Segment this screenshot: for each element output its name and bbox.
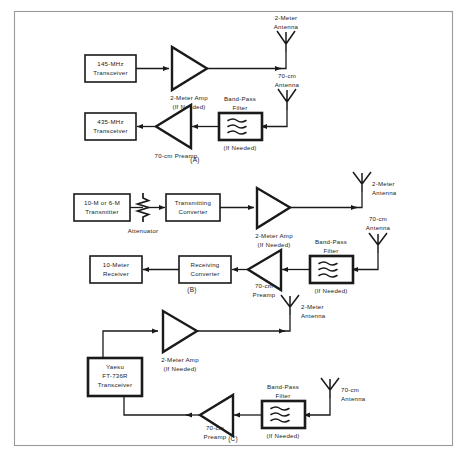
block-10meter-receiver: 10-Meter Receiver <box>90 256 142 283</box>
block-label-line2: Transceiver <box>93 69 127 76</box>
filter-label-line3: (If Needed) <box>223 144 256 151</box>
amp-label-line1: 2-Meter Amp <box>170 94 208 101</box>
wire-a-tx-3 <box>277 52 286 69</box>
antenna-label-line2: Antenna <box>275 81 300 88</box>
preamp-70cm-b: 70-cm Preamp <box>248 250 281 298</box>
antenna-label-line2: Antenna <box>274 23 299 30</box>
antenna-label-line1: 2-Meter <box>275 14 298 21</box>
amp-label-line2: (If Needed) <box>257 241 290 248</box>
section-label-a: (A) <box>190 156 199 164</box>
block-label-line3: Transceiver <box>98 381 132 388</box>
preamp-label-line1: 70-cm <box>206 424 224 431</box>
bandpass-filter-c: Band-Pass Filter (If Needed) <box>262 383 305 439</box>
antenna-label-line1: 70-cm <box>369 215 387 222</box>
bandpass-filter-a: Band-Pass Filter (If Needed) <box>219 95 262 151</box>
antenna-label-line1: 70-cm <box>341 386 359 393</box>
block-label-line1: Receiving <box>190 261 219 268</box>
block-label-line1: 435-MHz <box>97 118 123 125</box>
block-label-line1: 10-M or 6-M <box>84 199 120 206</box>
diagram-section-b: 10-M or 6-M Transmitter Attenuator Trans… <box>74 172 397 298</box>
antenna-label-line1: 2-Meter <box>301 303 324 310</box>
diagram-section-c: Yaesu FT-736R Transceiver 2-Meter Amp (I… <box>88 295 366 443</box>
amp-2meter-a: 2-Meter Amp (If Needed) <box>170 47 208 110</box>
antenna-70cm-a: 70-cm Antenna <box>275 72 300 110</box>
block-receiving-converter: Receiving Converter <box>179 256 231 283</box>
antenna-label-line1: 2-Meter <box>372 180 395 187</box>
diagram-section-a: 145-MHz Transceiver 2-Meter Amp (If Need… <box>85 14 300 164</box>
antenna-2meter-b: 2-Meter Antenna <box>353 172 397 196</box>
antenna-70cm-c: 70-cm Antenna <box>321 378 366 402</box>
wire-b-tx-4 <box>353 192 362 208</box>
filter-label-line2: Filter <box>275 392 290 399</box>
wire-c-tx-3 <box>281 315 290 331</box>
antenna-2meter-a: 2-Meter Antenna <box>274 14 299 52</box>
block-label-line1: 145-MHz <box>97 60 123 67</box>
block-label-line1: 10-Meter <box>103 261 129 268</box>
block-yaesu-ft736r-transceiver: Yaesu FT-736R Transceiver <box>88 358 142 396</box>
block-transmitting-converter: Transmitting Converter <box>166 194 220 221</box>
amp-2meter-b: 2-Meter Amp (If Needed) <box>255 188 293 248</box>
block-label-line2: Transceiver <box>93 127 127 134</box>
antenna-label-line2: Antenna <box>366 224 391 231</box>
antenna-label-line2: Antenna <box>341 395 366 402</box>
block-label-line2: Receiver <box>103 270 129 277</box>
section-label-b: (B) <box>187 286 196 294</box>
filter-label-line3: (If Needed) <box>314 287 347 294</box>
filter-label-line1: Band-Pass <box>224 95 256 102</box>
filter-label-line1: Band-Pass <box>315 238 347 245</box>
block-label-line2: Transmitter <box>85 208 118 215</box>
attenuator-b: Attenuator <box>128 193 159 234</box>
block-label-line1: Transmitting <box>175 199 211 206</box>
section-label-c: (C) <box>228 435 238 443</box>
wire-b-rx-4 <box>352 253 378 270</box>
antenna-label-line2: Antenna <box>372 189 397 196</box>
block-435mhz-transceiver: 435-MHz Transceiver <box>85 113 136 140</box>
amp-label-line1: 2-Meter Amp <box>255 232 293 239</box>
wire-c-tx-1 <box>103 331 158 358</box>
preamp-label-line1: 70-cm <box>255 282 273 289</box>
antenna-label-line1: 70-cm <box>278 72 296 79</box>
preamp-70cm-c: 70-cm Preamp <box>200 395 233 440</box>
block-10m-6m-transmitter: 10-M or 6-M Transmitter <box>74 194 130 221</box>
filter-label-line3: (If Needed) <box>266 432 299 439</box>
figure-root: 145-MHz Transceiver 2-Meter Amp (If Need… <box>0 0 467 459</box>
preamp-label-line2: Preamp <box>204 433 227 440</box>
amp-label-line1: 2-Meter Amp <box>161 356 199 363</box>
block-label-line2: FT-736R <box>102 372 128 379</box>
preamp-label-line2: Preamp <box>253 291 276 298</box>
bandpass-filter-b: Band-Pass Filter (If Needed) <box>310 238 353 294</box>
block-label-line1: Yaesu <box>106 363 124 370</box>
filter-label-line2: Filter <box>232 104 247 111</box>
block-label-line2: Converter <box>190 270 219 277</box>
block-label-line2: Converter <box>178 208 207 215</box>
amp-2meter-c: 2-Meter Amp (If Needed) <box>161 311 199 372</box>
attenuator-label: Attenuator <box>128 227 159 234</box>
preamp-70cm-a: 70-cm Preamp <box>155 105 198 159</box>
filter-label-line1: Band-Pass <box>267 383 299 390</box>
wire-a-rx-3 <box>261 110 287 127</box>
amp-label-line2: (If Needed) <box>163 365 196 372</box>
wire-c-rx-0 <box>124 396 192 415</box>
antenna-2meter-c: 2-Meter Antenna <box>281 295 326 319</box>
antenna-label-line2: Antenna <box>301 312 326 319</box>
wire-c-rx-3 <box>304 398 330 415</box>
filter-label-line2: Filter <box>323 247 338 254</box>
block-145mhz-transceiver: 145-MHz Transceiver <box>85 55 136 82</box>
antenna-70cm-b: 70-cm Antenna <box>366 215 391 253</box>
